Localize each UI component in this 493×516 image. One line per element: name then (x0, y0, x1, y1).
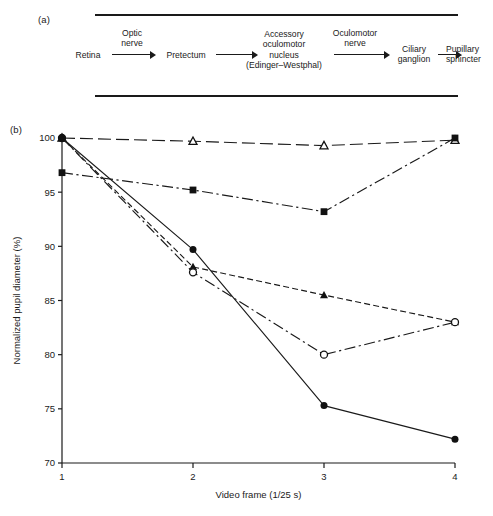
y-tick-label: 85 (44, 295, 55, 306)
marker-open-circle (190, 269, 197, 276)
marker-filled-square (321, 208, 328, 215)
flow-node-ciliary-ganglion: Ciliary ganglion (390, 44, 438, 65)
series-filled-square (59, 135, 459, 215)
chart-axes (58, 138, 455, 468)
marker-filled-square (59, 169, 66, 176)
y-tick-label: 95 (44, 187, 55, 198)
y-tick-label: 90 (44, 241, 55, 252)
series-filled-triangle (58, 134, 459, 326)
series-open-circle (59, 135, 459, 359)
x-tick-label: 2 (190, 471, 195, 482)
series-filled-circle (59, 135, 459, 443)
y-axis-title: Normalized pupil diameter (%) (11, 237, 22, 365)
arrow-shaft (112, 54, 150, 55)
flow-node-accessory-oculomotor-nucleus: Accessory oculomotor nucleus (Edinger–We… (236, 29, 332, 71)
y-tick-label: 70 (44, 457, 55, 468)
flow-node-retina: Retina (66, 50, 110, 60)
pupil-diameter-line-chart: 7075808590951001234Video frame (1/25 s)N… (0, 112, 493, 516)
series-filled-triangle-line (62, 138, 455, 322)
marker-open-circle (321, 351, 328, 358)
x-tick-label: 4 (452, 471, 457, 482)
marker-filled-square (452, 135, 459, 142)
x-tick-label: 1 (59, 471, 64, 482)
y-tick-label: 80 (44, 349, 55, 360)
chart-labels: 7075808590951001234Video frame (1/25 s)N… (11, 132, 458, 500)
marker-filled-circle (190, 246, 197, 253)
marker-open-circle (452, 319, 459, 326)
arrow-accessory-nucleus-to-ciliary-ganglion (334, 50, 390, 59)
flow-node-pupillary-line-1: Pupillary (446, 44, 493, 54)
panel-a-pathway-diagram: (a) Retina Optic nerve Pretectum Accesso… (0, 0, 493, 112)
panel-a-top-rule (95, 14, 458, 16)
series-filled-square-line (62, 138, 455, 212)
flow-node-ciliary-line-2: ganglion (390, 54, 438, 64)
flow-node-accessory-line-2: oculomotor (236, 39, 332, 49)
flow-node-retina-line-1: Retina (66, 50, 110, 60)
flow-caption-optic-nerve-line-1: Optic (108, 28, 156, 38)
x-tick-label: 3 (321, 471, 326, 482)
series-filled-circle-line (62, 138, 455, 439)
flow-caption-optic-nerve: Optic nerve (108, 28, 156, 49)
marker-filled-square (190, 187, 197, 194)
arrow-shaft (334, 54, 384, 55)
flow-node-pretectum: Pretectum (158, 50, 214, 60)
panel-b-chart: (b) 7075808590951001234Video frame (1/25… (0, 112, 493, 516)
flow-caption-oculomotor-nerve-line-1: Oculomotor (324, 28, 386, 38)
arrow-head (150, 51, 156, 59)
arrow-retina-to-pretectum (112, 50, 156, 59)
panel-a-bottom-rule (95, 95, 458, 97)
flow-caption-oculomotor-nerve-line-2: nerve (324, 38, 386, 48)
y-tick-label: 75 (44, 403, 55, 414)
flow-node-pupillary-sphincter: Pupillary sphincter (446, 44, 493, 65)
panel-a-label: (a) (38, 14, 50, 25)
flow-node-pupillary-line-2: sphincter (446, 54, 493, 64)
chart-series (58, 134, 459, 443)
marker-filled-circle (59, 135, 66, 142)
flow-node-ciliary-line-1: Ciliary (390, 44, 438, 54)
marker-filled-circle (452, 436, 459, 443)
y-tick-label: 100 (39, 132, 55, 143)
flow-node-accessory-line-1: Accessory (236, 29, 332, 39)
flow-node-accessory-line-4: (Edinger–Westphal) (236, 60, 332, 70)
marker-filled-circle (321, 402, 328, 409)
x-axis-title: Video frame (1/25 s) (216, 489, 302, 500)
flow-caption-oculomotor-nerve: Oculomotor nerve (324, 28, 386, 49)
flow-node-pretectum-line-1: Pretectum (158, 50, 214, 60)
series-open-triangle-line (62, 138, 455, 146)
flow-node-accessory-line-3: nucleus (236, 50, 332, 60)
series-open-triangle (58, 134, 459, 149)
flow-caption-optic-nerve-line-2: nerve (108, 38, 156, 48)
